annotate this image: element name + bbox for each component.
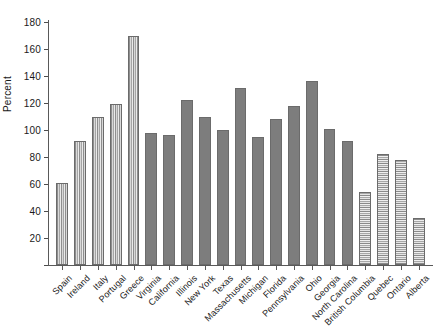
x-tick-mark xyxy=(258,266,259,270)
bar xyxy=(270,119,282,265)
bar xyxy=(217,130,229,265)
x-tick-mark xyxy=(151,266,152,270)
y-tick-label: 120 xyxy=(15,98,41,109)
x-tick-mark xyxy=(62,266,63,270)
bar xyxy=(74,141,86,265)
x-tick-mark xyxy=(419,266,420,270)
x-tick-mark xyxy=(241,266,242,270)
bar xyxy=(288,106,300,265)
bar xyxy=(359,192,371,265)
y-tick-mark xyxy=(44,211,48,212)
y-tick-mark xyxy=(44,103,48,104)
bar xyxy=(110,104,122,265)
bar xyxy=(199,117,211,266)
bar-chart: Percent 20406080100120140160180 SpainIre… xyxy=(0,0,440,335)
y-tick-label: 160 xyxy=(15,44,41,55)
y-tick-label: 140 xyxy=(15,71,41,82)
y-tick-mark xyxy=(44,49,48,50)
bar xyxy=(145,133,157,265)
bar xyxy=(324,129,336,265)
y-tick-label: 100 xyxy=(15,125,41,136)
y-tick-mark xyxy=(44,265,48,266)
bar xyxy=(128,36,140,266)
x-tick-mark xyxy=(383,266,384,270)
bar xyxy=(306,81,318,265)
x-tick-mark xyxy=(80,266,81,270)
y-tick-mark xyxy=(44,238,48,239)
bar xyxy=(395,160,407,265)
x-tick-mark xyxy=(116,266,117,270)
x-tick-mark xyxy=(330,266,331,270)
bar xyxy=(56,183,68,265)
y-tick-label: 20 xyxy=(15,233,41,244)
bar xyxy=(413,218,425,265)
bar xyxy=(181,100,193,265)
y-tick-mark xyxy=(44,76,48,77)
bar xyxy=(377,154,389,265)
x-tick-mark xyxy=(187,266,188,270)
y-tick-label: 80 xyxy=(15,152,41,163)
bar xyxy=(235,88,247,265)
y-tick-mark xyxy=(44,184,48,185)
y-tick-mark xyxy=(44,130,48,131)
y-axis-line xyxy=(48,20,49,266)
x-tick-mark xyxy=(134,266,135,270)
y-tick-label: 60 xyxy=(15,179,41,190)
bar xyxy=(252,137,264,265)
x-tick-mark xyxy=(98,266,99,270)
bar xyxy=(342,141,354,265)
x-tick-mark xyxy=(401,266,402,270)
x-tick-mark xyxy=(294,266,295,270)
bar xyxy=(163,135,175,265)
x-tick-mark xyxy=(223,266,224,270)
bar xyxy=(92,117,104,266)
y-tick-label: 40 xyxy=(15,206,41,217)
x-tick-mark xyxy=(276,266,277,270)
x-tick-mark xyxy=(347,266,348,270)
y-axis-title: Percent xyxy=(2,76,13,112)
x-tick-mark xyxy=(312,266,313,270)
x-tick-mark xyxy=(169,266,170,270)
y-tick-label: 180 xyxy=(15,17,41,28)
x-tick-mark xyxy=(205,266,206,270)
x-tick-mark xyxy=(365,266,366,270)
y-tick-mark xyxy=(44,22,48,23)
y-tick-mark xyxy=(44,157,48,158)
